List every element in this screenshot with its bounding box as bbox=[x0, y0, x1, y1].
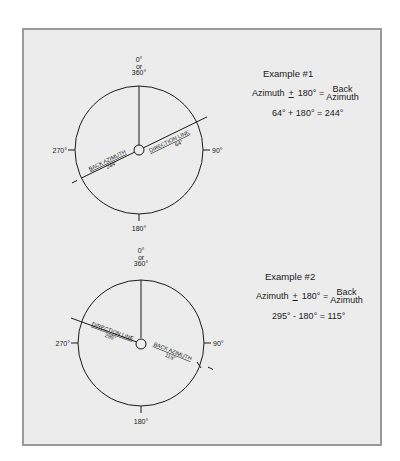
formula-azimuth: Azimuth bbox=[252, 88, 285, 98]
center-ring bbox=[134, 145, 144, 155]
compass-example-2 bbox=[71, 280, 213, 413]
back-azimuth-dash bbox=[208, 367, 213, 370]
west-label: 270° bbox=[56, 340, 71, 347]
example-2-calculation: 295° - 180° = 115° bbox=[272, 311, 345, 321]
example-1-title: Example #1 bbox=[263, 68, 313, 79]
east-label: 90° bbox=[212, 147, 223, 154]
example-1-formula: Azimuth + 180° = Back Azimuth bbox=[252, 85, 359, 101]
formula-azimuth: Azimuth bbox=[256, 291, 289, 301]
compass-diagrams: 0° or 360° 90° 180° 270° DIRECTION LINE … bbox=[0, 0, 400, 461]
example-2-title: Example #2 bbox=[265, 271, 315, 282]
north-label-360: 360° bbox=[134, 260, 149, 267]
direction-line-label: DIRECTION LINE bbox=[148, 129, 190, 154]
east-label: 90° bbox=[213, 340, 224, 347]
center-ring bbox=[136, 339, 146, 349]
formula-180: 180° = bbox=[298, 88, 324, 98]
example-1-calculation: 64° + 180° = 244° bbox=[272, 108, 343, 118]
formula-back-azimuth: Back Azimuth bbox=[326, 85, 359, 101]
plus-minus-symbol: + bbox=[289, 88, 294, 98]
formula-180: 180° = bbox=[302, 291, 328, 301]
south-label: 180° bbox=[132, 225, 147, 232]
example-2-formula: Azimuth + 180° = Back Azimuth bbox=[256, 288, 363, 304]
back-azimuth-dash bbox=[72, 181, 77, 183]
north-label-360: 360° bbox=[132, 69, 147, 76]
west-label: 270° bbox=[53, 147, 68, 154]
south-label: 180° bbox=[134, 418, 149, 425]
compass-example-1 bbox=[68, 86, 210, 221]
formula-azimuth-result: Azimuth bbox=[326, 93, 359, 101]
direction-line-label-group-2: DIRECTION LINE 295° bbox=[89, 321, 135, 347]
formula-back-azimuth: Back Azimuth bbox=[330, 288, 363, 304]
formula-azimuth-result: Azimuth bbox=[330, 296, 363, 304]
back-azimuth-label-group-1: BACK AZIMUTH 244° bbox=[88, 149, 130, 178]
plus-minus-symbol: + bbox=[293, 291, 298, 301]
direction-line-label-group-1: DIRECTION LINE 64° bbox=[148, 129, 193, 159]
back-azimuth-label-group-2: BACK AZIMUTH 115° bbox=[151, 341, 193, 367]
